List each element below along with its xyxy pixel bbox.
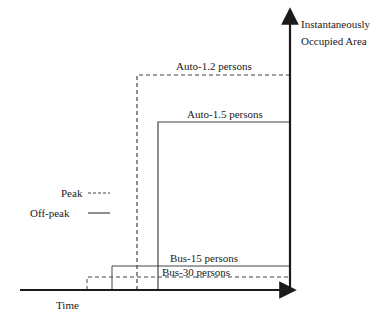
label-auto-1-5: Auto-1.5 persons [187,108,263,121]
legend-peak-label: Peak [61,187,82,200]
label-bus-15: Bus-15 persons [170,252,238,265]
x-axis-label: Time [56,299,79,312]
y-axis-label-line1: Instantaneously [301,18,370,31]
legend-offpeak-label: Off-peak [30,207,70,220]
label-auto-1-2: Auto-1.2 persons [176,60,252,73]
y-axis-label-line2: Occupied Area [301,35,367,48]
label-bus-30: Bus-30 persons [162,266,230,279]
